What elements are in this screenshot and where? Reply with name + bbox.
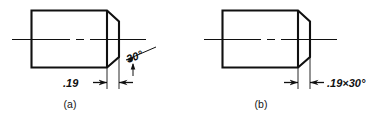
dimension-text-length-a: .19 <box>63 77 79 89</box>
drawing-page: .19 30° (a) <box>0 0 385 117</box>
figure-a: .19 30° (a) <box>12 11 156 111</box>
angle-reference-arrow-a <box>131 63 136 69</box>
dimension-text-angle-a: 30° <box>125 48 145 65</box>
figure-caption-a: (a) <box>64 98 77 110</box>
dimension-text-note-b: .19×30° <box>327 77 366 89</box>
technical-drawing-canvas: .19 30° (a) <box>0 0 385 117</box>
figure-caption-b: (b) <box>255 98 268 110</box>
figure-b: .19×30° (b) <box>204 11 366 111</box>
